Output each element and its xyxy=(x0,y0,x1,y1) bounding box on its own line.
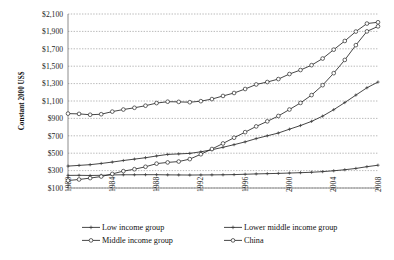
data-point-marker xyxy=(231,239,235,243)
x-axis-tick-label: 1996 xyxy=(241,177,250,192)
data-point-marker xyxy=(133,167,137,171)
series-middle-income-group xyxy=(66,20,380,116)
data-point-marker xyxy=(332,71,336,75)
data-point-marker xyxy=(321,57,325,61)
data-point-marker xyxy=(99,112,103,116)
data-point-marker xyxy=(166,161,170,165)
axes-group xyxy=(68,14,378,191)
data-point-marker xyxy=(88,113,92,117)
data-point-marker xyxy=(277,114,281,118)
data-point-marker xyxy=(332,48,336,52)
data-point-marker xyxy=(177,100,181,104)
legend-item-label: China xyxy=(244,236,264,245)
y-axis-title-text: Constant 2000 US$ xyxy=(18,71,26,130)
data-point-marker xyxy=(210,147,214,151)
chart-legend: Low income groupLower middle income grou… xyxy=(82,223,337,245)
data-point-marker xyxy=(243,130,247,134)
legend-item-label: Low income group xyxy=(102,223,164,232)
data-point-marker xyxy=(221,94,225,98)
data-point-marker xyxy=(299,68,303,72)
data-series-group xyxy=(66,20,380,182)
y-axis-tick-label: $2,100 xyxy=(42,10,63,19)
y-axis-tick-label: $1,300 xyxy=(42,79,63,88)
data-point-marker xyxy=(88,176,92,180)
series-path xyxy=(68,26,378,180)
data-point-marker xyxy=(365,30,369,34)
data-point-marker xyxy=(122,108,126,112)
y-axis-title: Constant 2000 US$ xyxy=(18,71,26,130)
data-point-marker xyxy=(144,165,148,169)
y-axis-tick-label: $500 xyxy=(48,149,63,158)
data-point-marker xyxy=(299,101,303,105)
data-point-marker xyxy=(199,99,203,103)
legend-item-label: Middle income group xyxy=(102,236,173,245)
data-point-marker xyxy=(354,43,358,47)
y-axis-tick-label: $1,500 xyxy=(42,62,63,71)
data-point-marker xyxy=(365,22,369,26)
x-axis-tick-label: 1992 xyxy=(196,177,205,192)
data-point-marker xyxy=(221,142,225,146)
y-axis-tick-label: $300 xyxy=(48,166,63,175)
data-point-marker xyxy=(77,178,81,182)
series-lower-middle-income-group xyxy=(66,80,379,167)
data-point-marker xyxy=(144,104,148,108)
data-point-marker xyxy=(254,125,258,129)
x-axis-tick-label: 1984 xyxy=(108,177,117,192)
y-axis-tick-label: $700 xyxy=(48,132,63,141)
data-point-marker xyxy=(265,80,269,84)
data-point-marker xyxy=(89,239,93,243)
data-point-marker xyxy=(310,93,314,97)
legend-item-lower-middle-income-group: Lower middle income group xyxy=(224,223,337,232)
x-axis-tick-label: 2000 xyxy=(285,177,294,192)
chart-canvas: $2,100$1,900$1,700$1,500$1,300$1,100$900… xyxy=(0,0,394,260)
data-point-marker xyxy=(110,172,114,176)
y-axis-tick-label: $100 xyxy=(48,184,63,193)
data-point-marker xyxy=(376,25,380,29)
legend-item-label: Lower middle income group xyxy=(244,223,337,232)
data-point-marker xyxy=(343,58,347,62)
legend-item-middle-income-group: Middle income group xyxy=(82,236,173,245)
y-axis-tick-label: $1,900 xyxy=(42,27,63,36)
legend-item-low-income-group: Low income group xyxy=(82,223,164,232)
y-axis-tick-label: $1,100 xyxy=(42,97,63,106)
data-point-marker xyxy=(288,108,292,112)
data-point-marker xyxy=(110,110,114,114)
data-point-marker xyxy=(66,179,70,183)
x-axis-tick-label: 2008 xyxy=(374,177,383,192)
y-axis-tick-label: $1,700 xyxy=(42,45,63,54)
data-point-marker xyxy=(155,101,159,105)
data-point-marker xyxy=(122,169,126,173)
legend-item-china: China xyxy=(224,236,264,245)
y-axis-tick-label: $900 xyxy=(48,114,63,123)
data-point-marker xyxy=(310,63,314,67)
data-point-marker xyxy=(77,112,81,116)
data-point-marker xyxy=(188,157,192,161)
y-axis-tick-labels: $2,100$1,900$1,700$1,500$1,300$1,100$900… xyxy=(42,10,63,193)
data-point-marker xyxy=(376,20,380,24)
data-point-marker xyxy=(66,112,70,116)
data-point-marker xyxy=(177,160,181,164)
data-point-marker xyxy=(254,83,258,87)
data-point-marker xyxy=(321,83,325,87)
data-point-marker xyxy=(232,91,236,95)
line-chart-figure: $2,100$1,900$1,700$1,500$1,300$1,100$900… xyxy=(0,0,394,260)
data-point-marker xyxy=(199,152,203,156)
x-axis-tick-labels: 19801984198819921996200020042008 xyxy=(64,177,383,192)
data-point-marker xyxy=(288,72,292,76)
data-point-marker xyxy=(133,106,137,110)
data-point-marker xyxy=(99,175,103,179)
data-point-marker xyxy=(265,120,269,124)
data-point-marker xyxy=(188,100,192,104)
data-point-marker xyxy=(354,30,358,34)
data-point-marker xyxy=(343,39,347,43)
x-axis-tick-label: 2004 xyxy=(329,177,338,192)
data-point-marker xyxy=(210,97,214,101)
x-axis-tick-label: 1988 xyxy=(152,177,161,192)
data-point-marker xyxy=(155,162,159,166)
data-point-marker xyxy=(232,136,236,140)
data-point-marker xyxy=(277,77,281,81)
data-point-marker xyxy=(166,100,170,104)
data-point-marker xyxy=(243,87,247,91)
